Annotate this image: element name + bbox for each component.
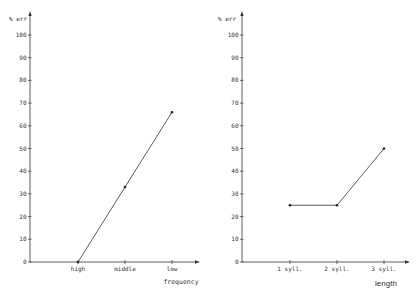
left-y-axis-arrow-icon	[28, 11, 31, 16]
right-y-ticks: 0102030405060708090100	[228, 31, 244, 265]
left-x-category-low: low	[167, 265, 178, 272]
y-tick-label: 0	[235, 258, 239, 265]
y-tick-label: 60	[231, 122, 239, 129]
y-tick-label: 30	[231, 190, 239, 197]
y-tick-label: 10	[231, 235, 239, 242]
right-data-line	[290, 149, 384, 206]
right-data-points	[289, 147, 386, 206]
data-point	[383, 147, 386, 150]
charts-canvas: % err 0102030405060708090100 high middle…	[0, 0, 419, 296]
y-tick-label: 40	[19, 167, 27, 174]
right-x-category-1-syll: 1 syll.	[277, 265, 302, 273]
left-x-axis-label: frequency	[163, 278, 198, 286]
y-tick-label: 70	[19, 99, 27, 106]
left-x-axis-arrow-icon	[195, 260, 200, 263]
right-y-axis-arrow-icon	[240, 11, 243, 16]
left-y-axis-label: % err	[9, 15, 27, 22]
y-tick-label: 80	[19, 76, 27, 83]
y-tick-label: 0	[23, 258, 27, 265]
right-x-axis-label: length	[375, 279, 397, 288]
right-x-category-3-syll: 3 syll.	[371, 265, 396, 273]
right-chart: % err 0102030405060708090100 1 syll. 2 s…	[218, 11, 410, 288]
right-y-axis-label: % err	[218, 15, 236, 22]
left-x-category-middle: middle	[114, 265, 136, 272]
y-tick-label: 50	[231, 145, 239, 152]
left-chart: % err 0102030405060708090100 high middle…	[9, 11, 200, 286]
y-tick-label: 30	[19, 190, 27, 197]
y-tick-label: 20	[231, 213, 239, 220]
y-tick-label: 50	[19, 145, 27, 152]
right-x-category-2-syll: 2 syll.	[324, 265, 349, 273]
y-tick-label: 100	[16, 31, 27, 38]
y-tick-label: 100	[228, 31, 239, 38]
left-y-ticks: 0102030405060708090100	[16, 31, 32, 265]
y-tick-label: 90	[19, 54, 27, 61]
right-x-axis-arrow-icon	[405, 260, 410, 263]
data-point	[336, 204, 339, 207]
y-tick-label: 60	[19, 122, 27, 129]
y-tick-label: 20	[19, 213, 27, 220]
data-point	[289, 204, 292, 207]
y-tick-label: 90	[231, 54, 239, 61]
y-tick-label: 40	[231, 167, 239, 174]
data-point	[77, 261, 80, 264]
data-point	[171, 111, 174, 114]
y-tick-label: 70	[231, 99, 239, 106]
y-tick-label: 80	[231, 76, 239, 83]
data-point	[124, 186, 127, 189]
left-x-category-high: high	[71, 265, 86, 273]
y-tick-label: 10	[19, 235, 27, 242]
